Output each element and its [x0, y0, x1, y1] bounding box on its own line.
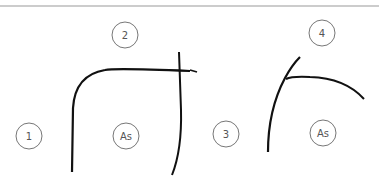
- label-as-right: As: [317, 128, 329, 139]
- curve-left-boundary: [72, 69, 190, 172]
- label-2: 2: [122, 30, 128, 41]
- label-circle-as-right: As: [310, 120, 336, 146]
- label-circle-1: 1: [16, 123, 42, 149]
- label-circle-4: 4: [309, 20, 335, 46]
- curve-arc-left: [268, 57, 300, 152]
- label-4: 4: [319, 28, 325, 39]
- diagram-canvas: 1 2 As 3 4 As: [0, 0, 379, 183]
- label-as-left: As: [120, 131, 132, 142]
- label-circle-3: 3: [213, 121, 239, 147]
- curve-fragment: [190, 70, 197, 72]
- label-1: 1: [26, 131, 32, 142]
- label-circle-2: 2: [112, 22, 138, 48]
- label-3: 3: [223, 129, 229, 140]
- label-circle-as-left: As: [113, 123, 139, 149]
- curve-arc-right: [286, 77, 364, 99]
